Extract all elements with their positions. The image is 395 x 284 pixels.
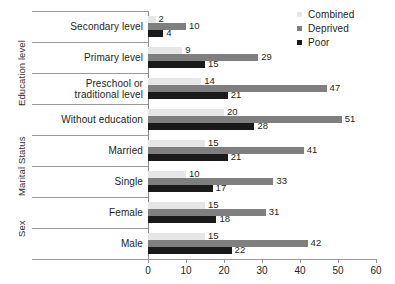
category-label: Male xyxy=(32,229,148,260)
x-axis-tick-label: 50 xyxy=(332,265,343,277)
category-label-line: Primary level xyxy=(84,52,143,64)
bar-row: 22 xyxy=(148,247,376,253)
bar-row: 33 xyxy=(148,178,376,184)
y-axis-tickmark xyxy=(144,197,148,198)
y-axis-tickmark xyxy=(144,228,148,229)
bar-value-label: 22 xyxy=(235,245,246,255)
category-label-line: Preschool or xyxy=(75,78,143,90)
x-axis-tick-label: 10 xyxy=(180,265,191,277)
y-axis-tickmark xyxy=(144,11,148,12)
bar-row: 15 xyxy=(148,233,376,239)
bar-row: 18 xyxy=(148,216,376,222)
bar-deprived xyxy=(148,116,342,122)
category-label-line: Without education xyxy=(61,114,143,126)
bar-combined xyxy=(148,109,224,115)
x-axis-tick-label: 40 xyxy=(294,265,305,277)
bar-row: 15 xyxy=(148,140,376,146)
bar-combined xyxy=(148,47,182,53)
bar-row: 21 xyxy=(148,92,376,98)
plot-area: 2104929151447212051281541211033171531181… xyxy=(148,11,376,259)
y-axis-tickmark xyxy=(144,42,148,43)
category-label: Married xyxy=(32,136,148,167)
bar-row: 15 xyxy=(148,202,376,208)
category-label: Without education xyxy=(32,105,148,136)
x-axis-tick-label: 0 xyxy=(145,265,151,277)
bar-deprived xyxy=(148,147,304,153)
category-label-column: Secondary levelPrimary levelPreschool or… xyxy=(32,11,148,260)
bar-row: 17 xyxy=(148,185,376,191)
bar-combined xyxy=(148,140,205,146)
category-label-line: Single xyxy=(115,176,143,188)
category-label: Primary level xyxy=(32,43,148,74)
bar-combined xyxy=(148,78,201,84)
bar-row: 15 xyxy=(148,61,376,67)
category-label: Secondary level xyxy=(32,12,148,43)
group-axis-title-education-level: Education level xyxy=(16,40,27,106)
category-bar-group: 154222 xyxy=(148,228,376,259)
bar-poor xyxy=(148,216,216,222)
y-axis-tickmark xyxy=(144,104,148,105)
category-bar-group: 205128 xyxy=(148,104,376,135)
bar-row: 47 xyxy=(148,85,376,91)
y-axis-tickmark xyxy=(144,135,148,136)
bar-combined xyxy=(148,171,186,177)
bar-row: 42 xyxy=(148,240,376,246)
bar-poor xyxy=(148,92,228,98)
category-label-line: Female xyxy=(109,207,143,219)
bar-combined xyxy=(148,16,156,22)
bar-poor xyxy=(148,30,163,36)
bar-deprived xyxy=(148,240,308,246)
x-axis-tick xyxy=(300,259,301,263)
bar-combined xyxy=(148,202,205,208)
category-label: Single xyxy=(32,167,148,198)
category-bar-group: 154121 xyxy=(148,135,376,166)
bar-combined xyxy=(148,233,205,239)
x-axis-tick-label: 30 xyxy=(256,265,267,277)
group-axis-title-sex: Sex xyxy=(16,220,27,237)
bar-poor xyxy=(148,123,254,129)
category-bar-group: 103317 xyxy=(148,166,376,197)
group-axis-title-marital-status: Marital Status xyxy=(16,136,27,195)
bar-row: 31 xyxy=(148,209,376,215)
category-label-line: Secondary level xyxy=(70,21,143,33)
bar-poor xyxy=(148,61,205,67)
category-bar-group: 144721 xyxy=(148,73,376,104)
bar-row: 10 xyxy=(148,171,376,177)
bar-deprived xyxy=(148,54,258,60)
bar-value-label: 21 xyxy=(231,152,242,162)
bar-deprived xyxy=(148,209,266,215)
grouped-bar-chart: Combined Deprived Poor Education level M… xyxy=(0,0,395,284)
bar-value-label: 21 xyxy=(231,90,242,100)
y-axis-tickmark xyxy=(144,166,148,167)
category-label-line: traditional level xyxy=(75,89,143,101)
category-label-line: Married xyxy=(108,145,143,157)
bar-row: 14 xyxy=(148,78,376,84)
y-axis-tickmark xyxy=(144,73,148,74)
bar-row: 2 xyxy=(148,16,376,22)
bar-poor xyxy=(148,185,213,191)
bar-row: 4 xyxy=(148,30,376,36)
bar-value-label: 28 xyxy=(257,121,268,131)
category-bar-group: 92915 xyxy=(148,42,376,73)
bar-poor xyxy=(148,247,232,253)
x-axis-tick xyxy=(338,259,339,263)
x-axis-tick xyxy=(376,259,377,263)
category-label: Female xyxy=(32,198,148,229)
category-label: Preschool ortraditional level xyxy=(32,74,148,105)
x-axis-tick xyxy=(224,259,225,263)
category-bar-group: 153118 xyxy=(148,197,376,228)
x-axis-tick xyxy=(262,259,263,263)
category-label-line: Male xyxy=(121,238,143,250)
bar-row: 29 xyxy=(148,54,376,60)
bar-row: 10 xyxy=(148,23,376,29)
bar-value-label: 15 xyxy=(208,59,219,69)
bar-row: 41 xyxy=(148,147,376,153)
bar-row: 21 xyxy=(148,154,376,160)
x-axis-tick xyxy=(148,259,149,263)
bar-value-label: 4 xyxy=(166,28,171,38)
category-bar-group: 2104 xyxy=(148,11,376,42)
bar-value-label: 17 xyxy=(216,183,227,193)
bar-deprived xyxy=(148,178,273,184)
x-axis-tick-label: 60 xyxy=(370,265,381,277)
x-axis-tick-label: 20 xyxy=(218,265,229,277)
